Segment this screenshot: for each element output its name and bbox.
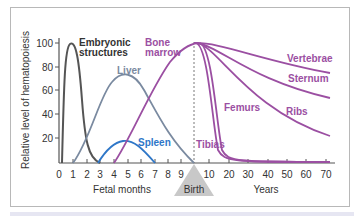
year-tick-30: 30 (242, 169, 254, 180)
y-tick-40: 40 (42, 109, 54, 120)
embryonic-label-line2: structures (79, 47, 128, 58)
years-label: Years (253, 184, 278, 195)
fetal-tick-4: 4 (111, 169, 117, 180)
year-tick-70: 70 (320, 169, 332, 180)
year-tick-40: 40 (262, 169, 274, 180)
fetal-tick-9: 9 (178, 169, 184, 180)
fetal-tick-1: 1 (70, 169, 76, 180)
year-tick-10: 10 (203, 169, 215, 180)
ribs-label: Ribs (286, 106, 308, 117)
fetal-tick-5: 5 (125, 169, 131, 180)
tibias-label: Tibias (196, 139, 225, 150)
liver-label: Liver (117, 65, 141, 76)
femurs-label: Femurs (224, 102, 261, 113)
bone-marrow-label-line2: marrow (145, 47, 181, 58)
y-tick-60: 60 (42, 85, 54, 96)
fetal-tick-7: 7 (152, 169, 158, 180)
fetal-months-label: Fetal months (93, 184, 151, 195)
sternum-curve (196, 43, 330, 98)
fetal-tick-6: 6 (138, 169, 144, 180)
y-tick-100: 100 (36, 38, 53, 49)
y-tick-20: 20 (42, 133, 54, 144)
sternum-label: Sternum (288, 73, 329, 84)
fetal-tick-3: 3 (97, 169, 103, 180)
embryonic-curve (62, 43, 100, 163)
fetal-tick-2: 2 (84, 169, 90, 180)
liver-curve (73, 74, 194, 163)
y-axis-label: Relative level of hematopoiesis (20, 31, 31, 169)
fetal-tick-8: 8 (165, 169, 171, 180)
birth-label: Birth (184, 184, 205, 195)
year-tick-60: 60 (300, 169, 312, 180)
year-tick-50: 50 (281, 169, 293, 180)
year-tick-20: 20 (223, 169, 235, 180)
fetal-tick-0: 0 (56, 169, 62, 180)
vertebrae-label: Vertebrae (287, 53, 333, 64)
hematopoiesis-chart: 100 80 60 40 20 Relative level of hemato… (0, 0, 354, 216)
spleen-label: Spleen (138, 137, 171, 148)
y-tick-80: 80 (42, 62, 54, 73)
